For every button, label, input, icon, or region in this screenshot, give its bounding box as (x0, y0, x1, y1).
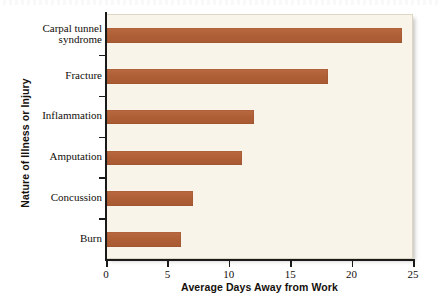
plot-area (106, 14, 413, 259)
bar-chart-figure: Nature of Illness or Injury Carpal tunne… (0, 0, 440, 298)
bar (107, 151, 242, 166)
x-axis-line (105, 259, 415, 261)
y-tick-label: Inflammation (28, 110, 102, 122)
y-tick-mark (99, 177, 105, 179)
y-tick-label: Carpal tunnelsyndrome (28, 23, 102, 46)
y-tick-mark (99, 96, 105, 98)
y-tick-mark (99, 218, 105, 220)
bar (107, 28, 402, 43)
x-tick-label: 10 (214, 268, 244, 280)
bar (107, 191, 193, 206)
y-axis-tick-labels: Carpal tunnelsyndromeFractureInflammatio… (28, 14, 102, 259)
x-tick-label: 25 (398, 268, 428, 280)
x-tick-label: 5 (152, 268, 182, 280)
y-tick-label: Burn (28, 233, 102, 245)
x-tick-mark (352, 261, 354, 267)
bar (107, 110, 254, 125)
y-tick-label: Amputation (28, 151, 102, 163)
x-tick-mark (290, 261, 292, 267)
x-tick-mark (413, 261, 415, 267)
x-tick-label: 15 (275, 268, 305, 280)
y-tick-label: Concussion (28, 192, 102, 204)
x-tick-label: 20 (337, 268, 367, 280)
x-tick-mark (229, 261, 231, 267)
x-tick-mark (167, 261, 169, 267)
x-tick-mark (106, 261, 108, 267)
x-axis-title: Average Days Away from Work (106, 281, 413, 293)
y-tick-mark (99, 137, 105, 139)
y-axis-line (105, 12, 107, 261)
y-tick-mark (99, 55, 105, 57)
bar (107, 69, 328, 84)
scan-edge-artifact (0, 0, 440, 5)
bar (107, 232, 181, 247)
x-tick-label: 0 (91, 268, 121, 280)
y-tick-label: Fracture (28, 70, 102, 82)
